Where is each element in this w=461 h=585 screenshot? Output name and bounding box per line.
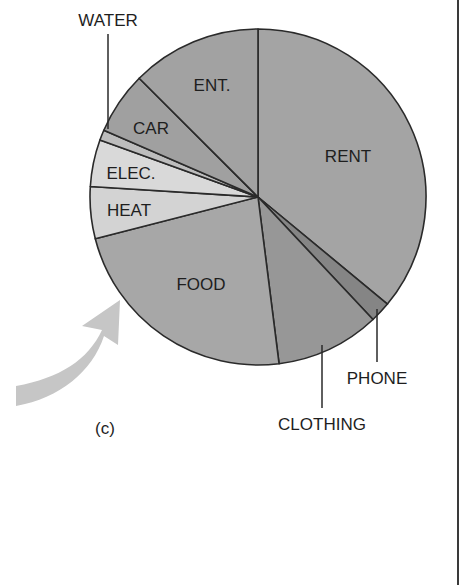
slice-label-phone: PHONE [347, 369, 407, 388]
slice-label-clothing: CLOTHING [278, 415, 366, 434]
pie-chart: RENTPHONECLOTHINGFOODHEATELEC.WATERCAREN… [0, 0, 461, 585]
slice-label-rent: RENT [325, 147, 371, 166]
page-border-line [457, 0, 459, 585]
slice-label-heat: HEAT [107, 201, 151, 220]
slice-label-ent: ENT. [194, 76, 231, 95]
slice-label-food: FOOD [176, 275, 225, 294]
slice-label-water: WATER [78, 11, 138, 30]
slice-label-elec: ELEC. [106, 164, 155, 183]
panel-label: (c) [95, 419, 115, 438]
slice-label-car: CAR [133, 119, 169, 138]
pie-slices [90, 29, 426, 365]
curved-arrow-icon [16, 300, 120, 406]
